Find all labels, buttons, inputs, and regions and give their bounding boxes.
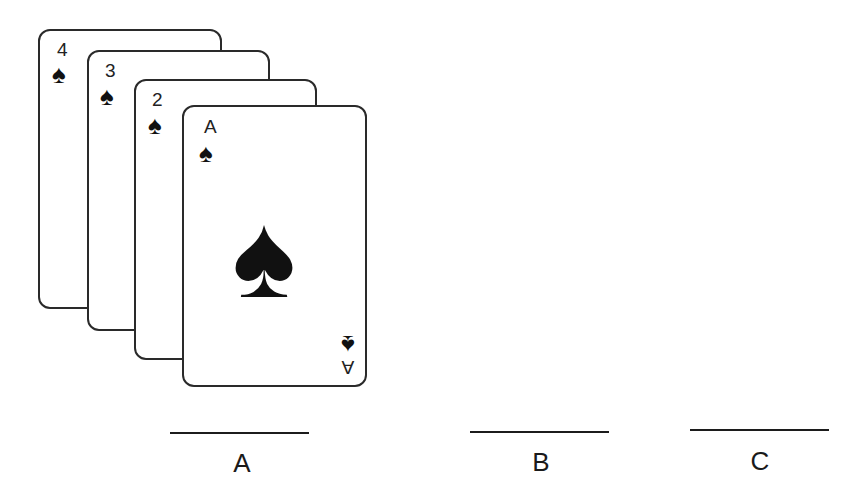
card-rank: 4 bbox=[57, 40, 68, 59]
spade-icon: ♠ bbox=[199, 140, 213, 166]
answer-label-c: C bbox=[730, 446, 790, 477]
spade-icon: ♠ bbox=[52, 61, 66, 87]
spade-icon: ♠ bbox=[100, 83, 114, 109]
spade-icon: ♠ bbox=[341, 332, 355, 358]
answer-blank-b bbox=[470, 431, 609, 433]
answer-label-b: B bbox=[511, 447, 571, 478]
card-corner-inverted: A ♠ bbox=[341, 332, 355, 377]
card-rank-inverted: A bbox=[341, 358, 355, 377]
answer-blank-a bbox=[170, 432, 309, 434]
card-ace-of-spades: A ♠ ♠ A ♠ bbox=[182, 105, 367, 387]
large-spade-icon: ♠ bbox=[232, 195, 296, 315]
card-rank: 2 bbox=[152, 90, 163, 109]
spade-icon: ♠ bbox=[148, 112, 162, 138]
card-rank: 3 bbox=[105, 61, 116, 80]
answer-label-a: A bbox=[212, 448, 272, 479]
answer-blank-c bbox=[690, 429, 829, 431]
card-rank: A bbox=[204, 117, 217, 136]
